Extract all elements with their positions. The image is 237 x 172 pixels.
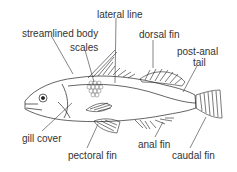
leader-lateral-line: [115, 18, 116, 83]
label-gill-cover: gill cover: [22, 134, 61, 144]
leader-pectoral-fin: [87, 124, 98, 148]
label-lateral-line: lateral line: [97, 10, 143, 20]
label-caudal-fin: caudal fin: [172, 151, 215, 161]
fish-diagram: lateral line streamlined body scales dor…: [0, 0, 237, 172]
label-post-anal-tail-line2: tail: [193, 58, 206, 68]
label-anal-fin: anal fin: [138, 140, 170, 150]
label-dorsal-fin: dorsal fin: [139, 30, 180, 40]
leader-anal-fin: [155, 122, 163, 137]
leader-scales: [85, 50, 94, 82]
fish-illustration: [0, 0, 237, 172]
leader-post-anal-tail: [183, 66, 197, 92]
label-post-anal-tail-line1: post-anal: [177, 47, 218, 57]
label-pectoral-fin: pectoral fin: [68, 151, 117, 161]
label-scales: scales: [70, 43, 98, 53]
label-streamlined-body: streamlined body: [22, 29, 98, 39]
leader-caudal-fin: [190, 117, 206, 148]
